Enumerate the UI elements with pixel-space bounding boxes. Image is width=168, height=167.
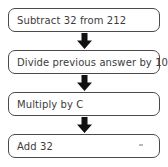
flowchart-step-3: Multiply by C bbox=[8, 92, 160, 116]
scan-artifact-mark bbox=[139, 144, 143, 146]
flowchart-step-3-label: Multiply by C bbox=[17, 99, 83, 110]
flowchart-step-4-label: Add 32 bbox=[17, 141, 53, 152]
flowchart-step-1: Subtract 32 from 212 bbox=[8, 8, 160, 32]
flowchart-step-4: Add 32 bbox=[8, 134, 160, 158]
flowchart-step-1-label: Subtract 32 from 212 bbox=[17, 15, 126, 26]
flowchart-step-2: Divide previous answer by 100 bbox=[8, 50, 160, 74]
down-arrow-icon bbox=[77, 117, 92, 133]
down-arrow-icon bbox=[77, 33, 92, 49]
down-arrow-icon bbox=[77, 75, 92, 91]
flowchart-step-2-label: Divide previous answer by 100 bbox=[17, 57, 168, 68]
flowchart-diagram: Subtract 32 from 212 Divide previous ans… bbox=[0, 0, 168, 167]
